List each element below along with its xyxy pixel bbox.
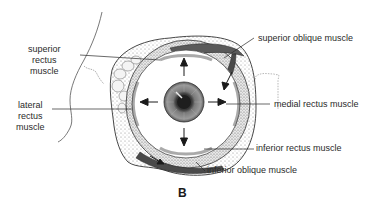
panel-label: B: [178, 186, 187, 200]
pupil: [177, 95, 191, 109]
label-inferior-oblique: inferior oblique muscle: [207, 165, 297, 176]
label-superior-rectus: superior rectus muscle: [28, 44, 61, 77]
label-inferior-rectus: inferior rectus muscle: [256, 143, 342, 154]
eye-muscle-diagram: superior rectus muscle lateral rectus mu…: [0, 0, 382, 204]
label-lateral-rectus: lateral rectus muscle: [16, 100, 45, 133]
label-superior-oblique: superior oblique muscle: [258, 33, 353, 44]
label-medial-rectus: medial rectus muscle: [274, 99, 359, 110]
iris: [164, 82, 204, 122]
